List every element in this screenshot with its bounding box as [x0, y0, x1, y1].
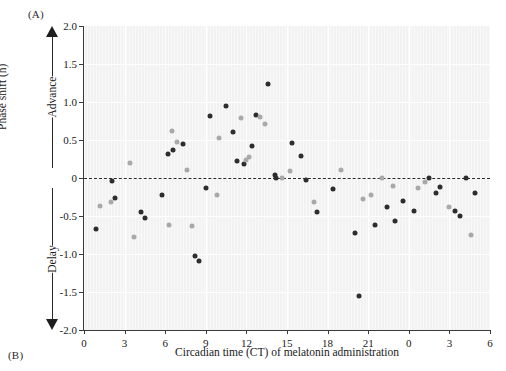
y-axis-tick: [79, 178, 83, 179]
data-point: [339, 167, 344, 172]
x-axis-title: Circadian time (CT) of melatonin adminis…: [84, 346, 490, 358]
data-point: [110, 179, 115, 184]
data-point: [214, 193, 219, 198]
data-point: [142, 216, 147, 221]
data-point: [247, 155, 252, 160]
y-axis: 2.01.51.00.50-0.5-1.0-1.5-2.0: [83, 26, 84, 331]
data-point: [165, 152, 170, 157]
data-point: [138, 210, 143, 215]
data-point: [385, 204, 390, 209]
data-point: [290, 141, 295, 146]
data-point: [352, 231, 357, 236]
data-point: [463, 176, 468, 181]
data-point: [217, 135, 222, 140]
data-point: [192, 253, 197, 258]
scatter-plot-area: [84, 26, 490, 330]
y-axis-tick: [79, 216, 83, 217]
data-point: [360, 196, 365, 201]
data-point: [241, 162, 246, 167]
data-point: [452, 208, 457, 213]
x-axis-tick: [246, 330, 247, 334]
data-point: [109, 199, 114, 204]
figure-panel-a: (A) (B) Advance Delay Phase shift (h) 2.…: [0, 0, 506, 371]
data-point: [312, 199, 317, 204]
data-point: [238, 115, 243, 120]
data-point: [167, 223, 172, 228]
data-point: [132, 235, 137, 240]
data-point: [224, 103, 229, 108]
y-axis-tick-label: 0: [72, 172, 78, 184]
x-axis-tick: [206, 330, 207, 334]
data-point: [184, 167, 189, 172]
data-point: [257, 115, 262, 120]
data-point: [190, 223, 195, 228]
data-point: [298, 153, 303, 158]
y-axis-tick: [79, 102, 83, 103]
data-point: [303, 177, 308, 182]
data-point: [279, 176, 284, 181]
data-point: [98, 204, 103, 209]
y-axis-tick-label: 1.0: [63, 96, 77, 108]
data-point: [437, 185, 442, 190]
data-point: [171, 147, 176, 152]
data-point: [230, 130, 235, 135]
data-point: [412, 209, 417, 214]
data-point: [197, 258, 202, 263]
x-axis-tick: [165, 330, 166, 334]
y-axis-tick-label: 0.5: [63, 134, 77, 146]
data-point: [433, 191, 438, 196]
y-axis-tick-label: -1.5: [60, 286, 77, 298]
data-point: [458, 214, 463, 219]
x-axis-tick: [328, 330, 329, 334]
gridline-vertical: [490, 26, 491, 330]
x-axis-tick: [368, 330, 369, 334]
y-axis-title: Phase shift (h): [0, 64, 8, 130]
data-point: [368, 192, 373, 197]
data-point: [416, 185, 421, 190]
y-axis-tick: [79, 254, 83, 255]
data-point: [469, 233, 474, 238]
delay-label: Delay: [43, 245, 61, 272]
data-point: [203, 185, 208, 190]
x-axis-tick: [287, 330, 288, 334]
y-axis-tick: [79, 140, 83, 141]
data-point: [113, 195, 118, 200]
y-axis-tick-label: 1.5: [63, 58, 77, 70]
data-point: [372, 223, 377, 228]
arrow-down-icon: [46, 319, 58, 330]
y-axis-tick-label: 2.0: [63, 20, 77, 32]
data-point: [401, 198, 406, 203]
data-point: [169, 128, 174, 133]
data-point: [160, 193, 165, 198]
data-point: [393, 219, 398, 224]
data-point: [234, 159, 239, 164]
y-axis-tick-label: -1.0: [60, 248, 77, 260]
data-point: [287, 169, 292, 174]
x-axis-tick: [409, 330, 410, 334]
advance-label: Advance: [43, 77, 61, 118]
x-axis-tick: [125, 330, 126, 334]
y-axis-tick: [79, 26, 83, 27]
data-point: [331, 187, 336, 192]
advance-direction-indicator: Advance: [42, 26, 64, 168]
data-point: [473, 191, 478, 196]
y-axis-tick-label: -0.5: [60, 210, 77, 222]
data-point: [423, 179, 428, 184]
data-point: [128, 160, 133, 165]
x-axis-tick: [84, 330, 85, 334]
panel-b-label: (B): [8, 349, 23, 361]
data-point: [249, 144, 254, 149]
data-point: [207, 114, 212, 119]
data-point: [180, 141, 185, 146]
data-point: [94, 226, 99, 231]
data-point: [390, 183, 395, 188]
y-axis-tick: [79, 64, 83, 65]
x-axis: 036912151821036: [84, 330, 490, 331]
y-axis-tick-label: -2.0: [60, 324, 77, 336]
data-point: [427, 176, 432, 181]
data-point: [266, 81, 271, 86]
data-point: [175, 139, 180, 144]
data-point: [314, 210, 319, 215]
data-point: [379, 176, 384, 181]
data-point: [274, 176, 279, 181]
